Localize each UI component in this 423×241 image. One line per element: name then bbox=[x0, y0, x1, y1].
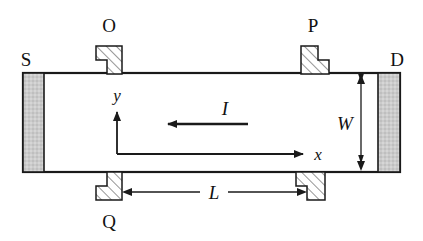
probe-contact-o-shape bbox=[96, 46, 122, 74]
diagram-canvas: O P Q S D y x I W L bbox=[0, 0, 423, 241]
device-diagram-figure: O P Q S D y x I W L bbox=[0, 0, 423, 241]
probe-contact-q-shape bbox=[96, 172, 122, 200]
label-source: S bbox=[21, 49, 32, 70]
source-electrode-rect bbox=[23, 73, 44, 172]
label-probe-p: P bbox=[308, 15, 319, 36]
probe-contact-bottom-right bbox=[296, 172, 325, 200]
length-arrowhead-right bbox=[297, 188, 307, 196]
probe-contact-bottom-right-shape bbox=[296, 172, 325, 200]
length-arrowhead-left bbox=[122, 188, 132, 196]
label-length: L bbox=[208, 182, 220, 203]
label-drain: D bbox=[390, 49, 404, 70]
drain-electrode-rect bbox=[378, 73, 400, 172]
source-electrode bbox=[23, 73, 44, 172]
label-width: W bbox=[337, 113, 355, 134]
label-probe-o: O bbox=[102, 15, 116, 36]
probe-contact-q bbox=[96, 172, 122, 200]
label-axis-y: y bbox=[111, 86, 121, 105]
drain-electrode bbox=[378, 73, 400, 172]
probe-contact-o bbox=[96, 46, 122, 74]
label-probe-q: Q bbox=[102, 211, 116, 232]
probe-contact-p bbox=[301, 46, 329, 74]
probe-contact-p-shape bbox=[301, 46, 329, 74]
label-axis-x: x bbox=[313, 145, 322, 164]
